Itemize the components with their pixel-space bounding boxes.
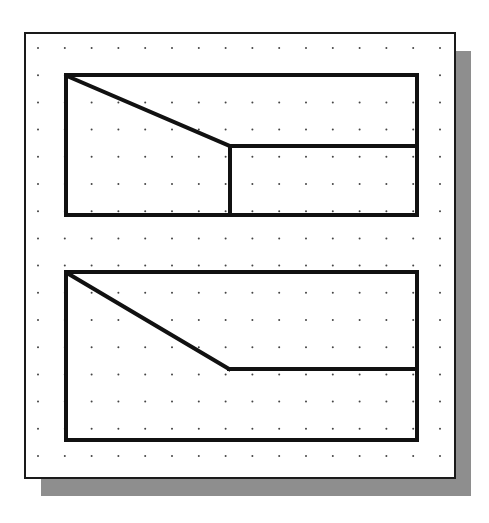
grid-dot <box>144 428 146 430</box>
grid-dot <box>225 265 227 267</box>
grid-dot <box>171 237 173 239</box>
grid-dot <box>412 319 414 321</box>
grid-dot <box>385 373 387 375</box>
grid-dot <box>144 156 146 158</box>
grid-dot <box>251 237 253 239</box>
grid-dot <box>225 156 227 158</box>
grid-dot <box>225 428 227 430</box>
grid-dot <box>251 210 253 212</box>
grid-dot <box>198 319 200 321</box>
grid-dot <box>171 346 173 348</box>
grid-dot <box>278 47 280 49</box>
grid-dot <box>37 47 39 49</box>
grid-dot <box>251 292 253 294</box>
grid-dot <box>385 265 387 267</box>
grid-dot <box>64 265 66 267</box>
grid-dot <box>305 265 307 267</box>
grid-dot <box>171 265 173 267</box>
grid-dot <box>359 428 361 430</box>
grid-dot <box>171 401 173 403</box>
grid-dot <box>251 129 253 131</box>
grid-dot <box>278 237 280 239</box>
grid-dot <box>439 346 441 348</box>
grid-dot <box>144 210 146 212</box>
grid-dot <box>332 292 334 294</box>
grid-dot <box>198 101 200 103</box>
grid-dot <box>305 47 307 49</box>
grid-dot <box>439 428 441 430</box>
grid-dot <box>144 455 146 457</box>
grid-dot <box>412 129 414 131</box>
grid-dot <box>439 74 441 76</box>
grid-dot <box>37 265 39 267</box>
grid-dot <box>359 401 361 403</box>
grid-dot <box>91 428 93 430</box>
grid-dot <box>412 156 414 158</box>
grid-dot <box>332 47 334 49</box>
grid-dot <box>412 183 414 185</box>
grid-dot <box>359 373 361 375</box>
grid-dot <box>91 156 93 158</box>
grid-dot <box>64 47 66 49</box>
grid-dot <box>385 401 387 403</box>
grid-dot <box>332 265 334 267</box>
grid-dot <box>385 455 387 457</box>
grid-dot <box>117 401 119 403</box>
grid-dot <box>359 292 361 294</box>
grid-dot <box>439 101 441 103</box>
grid-dot <box>305 455 307 457</box>
grid-dot <box>278 183 280 185</box>
grid-dot <box>412 292 414 294</box>
grid-dot <box>198 183 200 185</box>
grid-dot <box>171 455 173 457</box>
grid-dot <box>37 156 39 158</box>
grid-dot <box>305 401 307 403</box>
grid-dot <box>225 101 227 103</box>
grid-dot <box>439 373 441 375</box>
grid-dot <box>117 47 119 49</box>
grid-dot <box>144 292 146 294</box>
grid-dot <box>37 428 39 430</box>
grid-dot <box>251 373 253 375</box>
grid-dot <box>171 319 173 321</box>
grid-dot <box>225 47 227 49</box>
grid-dot <box>439 183 441 185</box>
grid-dot <box>171 373 173 375</box>
grid-dot <box>439 455 441 457</box>
grid-dot <box>225 346 227 348</box>
grid-dot <box>144 265 146 267</box>
grid-dot <box>439 210 441 212</box>
grid-dot <box>117 292 119 294</box>
grid-dot <box>359 237 361 239</box>
grid-dot <box>305 210 307 212</box>
grid-dot <box>305 237 307 239</box>
grid-dot <box>305 292 307 294</box>
grid-dot <box>278 455 280 457</box>
grid-dot <box>359 156 361 158</box>
grid-dot <box>305 373 307 375</box>
grid-dot <box>412 47 414 49</box>
grid-dot <box>198 210 200 212</box>
grid-dot <box>117 237 119 239</box>
grid-dot <box>91 373 93 375</box>
grid-dot <box>171 156 173 158</box>
grid-dot <box>37 455 39 457</box>
grid-dot <box>251 265 253 267</box>
grid-dot <box>144 373 146 375</box>
grid-dot <box>439 156 441 158</box>
grid-dot <box>117 183 119 185</box>
grid-dot <box>439 401 441 403</box>
grid-dot <box>439 319 441 321</box>
grid-dot <box>144 183 146 185</box>
grid-dot <box>117 373 119 375</box>
grid-dot <box>37 129 39 131</box>
grid-dot <box>412 401 414 403</box>
grid-dot <box>117 156 119 158</box>
grid-dot <box>225 319 227 321</box>
grid-dot <box>439 237 441 239</box>
grid-dot <box>198 47 200 49</box>
grid-dot <box>144 101 146 103</box>
grid-dot <box>37 101 39 103</box>
grid-dot <box>64 455 66 457</box>
grid-dot <box>359 129 361 131</box>
